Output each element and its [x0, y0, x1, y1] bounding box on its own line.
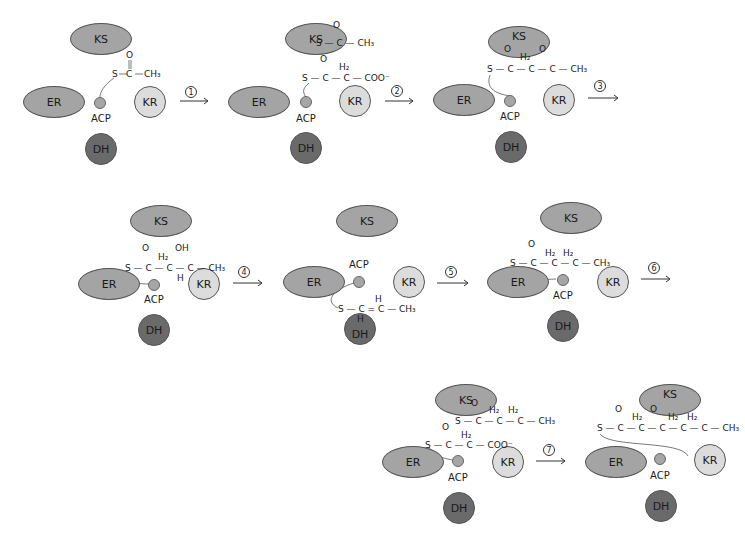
dh-enzyme: DH [443, 492, 475, 524]
er-enzyme: ER [283, 266, 345, 298]
ks-acetyl-group: S — C — CH₃ [316, 39, 374, 48]
step-2-marker: 2 [391, 85, 403, 97]
dh-enzyme: DH [645, 490, 677, 522]
kr-enzyme: KR [339, 85, 371, 117]
step-5-marker: 5 [445, 266, 457, 278]
malonyl-carbonyl-o: O [320, 55, 327, 64]
fas-cycle-diagram: KS ER KR DH ACP S C O CH₃ 1 KS ER KR DH … [0, 0, 745, 540]
dh-label: DH [555, 320, 572, 333]
malonyl-carbonyl-o: O [442, 423, 449, 432]
dh-enzyme: DH [495, 131, 527, 163]
ks-carbonyl-o: O [333, 21, 340, 30]
dh-label: DH [298, 142, 315, 155]
malonyl-group: S — C — C — COO⁻ [302, 74, 390, 83]
h2-1: H₂ [520, 53, 530, 62]
step-3-marker: 3 [594, 80, 606, 92]
ks-label: KS [94, 33, 108, 46]
step-6-marker: 6 [648, 262, 660, 274]
h2-3: H₂ [687, 413, 697, 422]
er-enzyme: ER [23, 86, 85, 118]
h2-2: H₂ [668, 413, 678, 422]
acp-domain [504, 95, 516, 107]
acp-domain [148, 279, 160, 291]
thioester-s: S [112, 70, 118, 79]
dh-label: DH [93, 143, 110, 156]
hydrogen-h-bottom: H [357, 315, 364, 324]
acp-label: ACP [448, 473, 468, 483]
h2-1: H₂ [632, 413, 642, 422]
ks-label: KS [154, 215, 168, 228]
malonyl-h2: H₂ [461, 431, 471, 440]
kr-label: KR [348, 95, 363, 108]
er-label: ER [457, 94, 472, 107]
kr-enzyme: KR [134, 86, 166, 118]
acp-domain [94, 97, 106, 109]
acp-label: ACP [500, 112, 520, 122]
ketohexanoyl-group: S — C — C — C — C — C — CH₃ [597, 424, 739, 433]
kr-enzyme: KR [492, 446, 524, 478]
er-label: ER [47, 96, 62, 109]
ks-label: KS [512, 30, 526, 43]
ks-label: KS [360, 215, 374, 228]
acp-label: ACP [296, 114, 316, 124]
er-label: ER [511, 276, 526, 289]
ks-carbonyl-o: O [471, 399, 478, 408]
hydroxybutyryl-group: S — C — C — C — CH₃ [125, 264, 225, 273]
acp-label: ACP [553, 291, 573, 301]
hydroxyl-oh: OH [175, 244, 189, 253]
kr-enzyme: KR [543, 84, 575, 116]
ks-label: KS [564, 212, 578, 225]
dh-label: DH [451, 502, 468, 515]
methyl-group: CH₃ [144, 70, 161, 79]
h2-1: H₂ [545, 249, 555, 258]
er-label: ER [609, 456, 624, 469]
er-label: ER [307, 276, 322, 289]
acp-domain [452, 455, 464, 467]
dh-enzyme: DH [138, 314, 170, 346]
h2: H₂ [158, 253, 168, 262]
ks-enzyme: KS [70, 23, 132, 55]
dh-enzyme: DH [290, 132, 322, 164]
carbonyl-c: C [126, 70, 132, 79]
step-7-marker: 7 [543, 444, 555, 456]
ks-label: KS [663, 388, 677, 401]
ks-enzyme: KS [435, 384, 497, 416]
er-label: ER [252, 96, 267, 109]
dh-enzyme: DH [85, 133, 117, 165]
carbonyl-o: O [126, 51, 133, 60]
kr-enzyme: KR [597, 266, 629, 298]
acp-label: ACP [650, 471, 670, 481]
kr-label: KR [606, 276, 621, 289]
er-enzyme: ER [585, 446, 647, 478]
acp-domain [300, 96, 312, 108]
crotonyl-group: S — C = C — CH₃ [338, 305, 416, 314]
ks-enzyme: KS [540, 202, 602, 234]
er-label: ER [406, 456, 421, 469]
kr-label: KR [197, 278, 212, 291]
ks-butyryl-group: S — C — C — C — CH₃ [455, 417, 555, 426]
acp-label: ACP [349, 260, 369, 270]
dh-enzyme: DH [547, 310, 579, 342]
acp-label: ACP [144, 295, 164, 305]
carbonyl-o: O [142, 244, 149, 253]
kr-label: KR [402, 276, 417, 289]
acetoacetyl-group: S — C — C — C — CH₃ [487, 65, 587, 74]
kr-enzyme: KR [694, 444, 726, 476]
er-enzyme: ER [433, 84, 495, 116]
acp-domain [654, 453, 666, 465]
malonyl-h2: H₂ [339, 63, 349, 72]
acp-domain [557, 274, 569, 286]
carbonyl-o-2: O [539, 45, 546, 54]
hydrogen-h-top: H [375, 295, 382, 304]
dh-label: DH [146, 324, 163, 337]
hydrogen-h: H [177, 274, 184, 283]
er-enzyme: ER [382, 446, 444, 478]
dh-label: DH [653, 500, 670, 513]
kr-enzyme: KR [393, 266, 425, 298]
carbonyl-o-2: O [650, 405, 657, 414]
butyryl-group: S — C — C — C — CH₃ [510, 259, 610, 268]
er-enzyme: ER [487, 266, 549, 298]
kr-label: KR [143, 96, 158, 109]
h2-2: H₂ [563, 249, 573, 258]
carbonyl-o-1: O [504, 45, 511, 54]
